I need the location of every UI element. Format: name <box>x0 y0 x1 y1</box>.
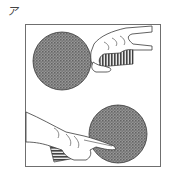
bottom-paddle <box>26 105 147 163</box>
top-paddle <box>33 26 152 90</box>
bottom-paddle-blade <box>89 105 147 163</box>
paddle-illustration <box>0 0 176 176</box>
top-paddle-blade <box>33 32 91 90</box>
